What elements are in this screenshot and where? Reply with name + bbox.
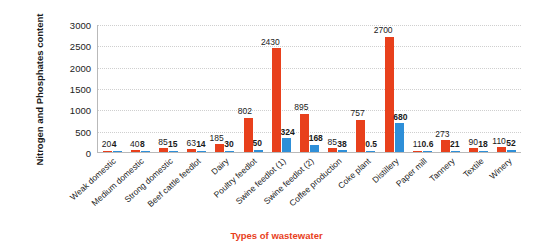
bar-group: 204: [98, 25, 126, 152]
value-label-nitrogen: 757: [351, 109, 365, 118]
bar-nitrogen[interactable]: [215, 144, 224, 152]
value-label-nitrogen: 2700: [374, 26, 393, 35]
x-axis-label-cell: Coke plant: [351, 154, 379, 224]
y-axis-tick: 2500: [70, 41, 91, 52]
bar-phosphate[interactable]: [113, 151, 122, 153]
value-label-nitrogen: 185: [210, 134, 224, 143]
x-axis-label-cell: Coffee production: [323, 154, 351, 224]
value-label-nitrogen: 90: [469, 138, 478, 147]
value-label-nitrogen: 110: [492, 137, 506, 146]
value-label-phosphate: 680: [393, 113, 407, 122]
wastewater-bar-chart: Nitrogen and Phosphates content 05001000…: [0, 0, 553, 249]
bar-nitrogen[interactable]: [469, 148, 478, 152]
bar-phosphate[interactable]: [423, 151, 432, 153]
bar-group: 2700680: [380, 25, 408, 152]
y-axis-tick-labels: 050010001500200025003000: [50, 19, 94, 155]
y-axis-tick: 2000: [70, 62, 91, 73]
bar-phosphate[interactable]: [479, 151, 488, 153]
x-axis-category-label: Weak domestic: [68, 156, 118, 202]
value-label-nitrogen: 20: [102, 140, 111, 149]
bar-nitrogen[interactable]: [497, 147, 506, 152]
bar-nitrogen[interactable]: [356, 120, 365, 152]
x-axis-label-cell: Winery: [493, 154, 521, 224]
value-label-nitrogen: 63: [186, 139, 195, 148]
value-label-phosphate: 18: [478, 140, 487, 149]
value-label-phosphate: 8: [140, 140, 145, 149]
value-label-phosphate: 14: [196, 140, 205, 149]
x-axis-label-cell: Paper mill: [408, 154, 436, 224]
bar-nitrogen[interactable]: [159, 148, 168, 152]
value-label-nitrogen: 85: [158, 138, 167, 147]
value-label-phosphate: 324: [280, 128, 294, 137]
y-axis-tick: 1500: [70, 84, 91, 95]
bar-group: 895168: [295, 25, 323, 152]
bar-nitrogen[interactable]: [385, 37, 394, 152]
value-label-nitrogen: 802: [238, 107, 252, 116]
value-label-phosphate: 0.6: [422, 140, 434, 149]
value-label-nitrogen: 895: [294, 103, 308, 112]
bar-nitrogen[interactable]: [272, 48, 281, 152]
plot-area: 2044088515631418530802502430324895168853…: [97, 25, 521, 153]
bar-nitrogen[interactable]: [187, 149, 196, 152]
bar-groups: 2044088515631418530802502430324895168853…: [98, 25, 521, 152]
bar-group: 8538: [324, 25, 352, 152]
y-axis-tick: 0: [86, 148, 91, 159]
bar-phosphate[interactable]: [225, 151, 234, 153]
value-label-phosphate: 168: [309, 134, 323, 143]
value-label-nitrogen: 40: [130, 140, 139, 149]
bar-phosphate[interactable]: [169, 151, 178, 153]
bar-group: 7570.5: [352, 25, 380, 152]
x-axis-label-cell: Beef cattle feedlot: [182, 154, 210, 224]
bar-group: 8515: [154, 25, 182, 152]
bar-nitrogen[interactable]: [131, 150, 140, 152]
x-axis-category-label: Textile: [461, 156, 486, 180]
bar-nitrogen[interactable]: [300, 114, 309, 152]
bar-nitrogen[interactable]: [328, 148, 337, 152]
bar-group: 9018: [465, 25, 493, 152]
x-axis-category-labels: Weak domesticMedium domesticStrong domes…: [97, 154, 521, 224]
bar-phosphate[interactable]: [338, 150, 347, 152]
y-axis-tick: 3000: [70, 20, 91, 31]
bar-phosphate[interactable]: [197, 151, 206, 153]
bar-phosphate[interactable]: [254, 150, 263, 152]
value-label-phosphate: 0.5: [365, 140, 377, 149]
bar-group: 18530: [211, 25, 239, 152]
y-axis-title: Nitrogen and Phosphates content: [34, 0, 45, 185]
value-label-phosphate: 30: [224, 140, 233, 149]
bar-group: 6314: [183, 25, 211, 152]
bar-phosphate[interactable]: [141, 151, 150, 153]
bar-group: 408: [126, 25, 154, 152]
value-label-nitrogen: 2430: [261, 38, 280, 47]
bar-group: 27321: [436, 25, 464, 152]
value-label-phosphate: 21: [450, 140, 459, 149]
bar-phosphate[interactable]: [451, 151, 460, 153]
bar-nitrogen[interactable]: [441, 140, 450, 152]
value-label-phosphate: 52: [506, 139, 515, 148]
y-axis-tick: 500: [75, 126, 91, 137]
value-label-phosphate: 38: [337, 140, 346, 149]
value-label-nitrogen: 273: [435, 130, 449, 139]
value-label-nitrogen: 85: [327, 138, 336, 147]
bar-nitrogen[interactable]: [244, 118, 253, 152]
bar-group: 11052: [493, 25, 521, 152]
x-axis-category-label: Dairy: [209, 156, 230, 177]
bar-nitrogen[interactable]: [413, 151, 422, 153]
x-axis-title: Types of wastewater: [0, 230, 553, 241]
value-label-nitrogen: 11: [413, 140, 422, 149]
bar-phosphate[interactable]: [310, 145, 319, 152]
x-axis-label-cell: Tannery: [436, 154, 464, 224]
bar-phosphate[interactable]: [366, 151, 375, 153]
bar-nitrogen[interactable]: [103, 151, 112, 153]
x-axis-label-cell: Textile: [464, 154, 492, 224]
bar-phosphate[interactable]: [282, 138, 291, 152]
x-axis-label-cell: Distillery: [380, 154, 408, 224]
bar-phosphate[interactable]: [507, 150, 516, 152]
bar-phosphate[interactable]: [395, 123, 404, 152]
value-label-phosphate: 50: [253, 139, 262, 148]
value-label-phosphate: 4: [112, 140, 117, 149]
value-label-phosphate: 15: [168, 140, 177, 149]
bar-group: 2430324: [267, 25, 295, 152]
bar-group: 110.6: [408, 25, 436, 152]
y-axis-tick: 1000: [70, 105, 91, 116]
